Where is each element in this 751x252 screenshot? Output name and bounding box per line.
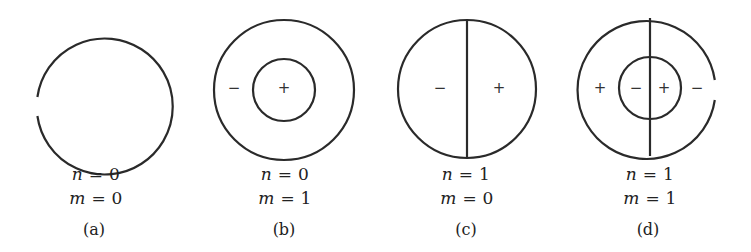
n-variable: n [442, 164, 453, 184]
panel-a-n-label: n = 0 [36, 164, 156, 184]
n-value: = 1 [453, 164, 490, 184]
mode-diagrams [0, 0, 751, 252]
n-variable: n [72, 164, 83, 184]
panel-d-sign-inner-right: + [654, 80, 674, 96]
m-value: = 1 [640, 188, 677, 208]
n-value: = 0 [83, 164, 120, 184]
m-variable: m [258, 188, 274, 208]
panel-d-caption: (d) [588, 220, 708, 239]
panel-a-outer-circle [37, 38, 172, 174]
panel-d-n-label: n = 1 [590, 164, 710, 184]
panel-c-sign-right: + [489, 80, 509, 96]
panel-b-sign-inner: + [274, 80, 294, 96]
m-value: = 1 [275, 188, 312, 208]
m-variable: m [69, 188, 85, 208]
m-value: = 0 [86, 188, 123, 208]
panel-c-caption: (c) [406, 220, 526, 239]
panel-c-m-label: m = 0 [407, 188, 527, 208]
panel-b-m-label: m = 1 [225, 188, 345, 208]
panel-b-caption: (b) [224, 220, 344, 239]
n-variable: n [626, 164, 637, 184]
n-value: = 0 [272, 164, 309, 184]
m-value: = 0 [457, 188, 494, 208]
m-variable: m [623, 188, 639, 208]
panel-a-caption: (a) [34, 220, 154, 239]
panel-d-sign-outer-right: − [687, 80, 707, 96]
n-variable: n [261, 164, 272, 184]
panel-c-n-label: n = 1 [406, 164, 526, 184]
mode-pattern-figure: − + − + + − + − n = 0 m = 0 (a) n = 0 m … [0, 0, 751, 252]
panel-c-sign-left: − [430, 80, 450, 96]
panel-b-n-label: n = 0 [225, 164, 345, 184]
panel-d-m-label: m = 1 [590, 188, 710, 208]
panel-a-m-label: m = 0 [36, 188, 156, 208]
panel-d-sign-inner-left: − [626, 80, 646, 96]
panel-b-sign-outer: − [224, 80, 244, 96]
n-value: = 1 [637, 164, 674, 184]
m-variable: m [440, 188, 456, 208]
panel-d-sign-outer-left: + [590, 80, 610, 96]
